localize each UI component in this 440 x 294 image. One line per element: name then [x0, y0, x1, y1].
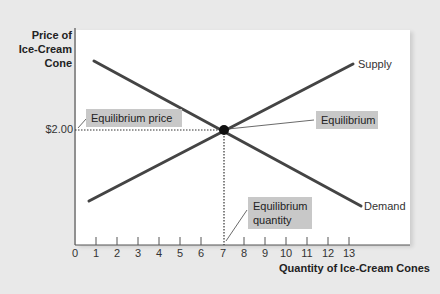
y-axis-label-line: Ice-Cream [19, 42, 72, 56]
equilibrium-point [219, 125, 229, 135]
x-tick-label: 5 [177, 247, 183, 259]
supply-label: Supply [358, 58, 392, 70]
x-tick-label: 4 [156, 247, 162, 259]
demand-label: Demand [364, 200, 406, 212]
y-axis-label-line: Cone [19, 56, 72, 70]
equilibrium-quantity-callout: Equilibrium quantity [248, 197, 312, 229]
x-tick-label: 3 [135, 247, 141, 259]
x-tick-label: 12 [322, 247, 334, 259]
x-tick-label: 0 [72, 247, 78, 259]
eq-qty-leader [226, 210, 247, 241]
x-tick-label: 8 [241, 247, 247, 259]
equilibrium-callout: Equilibrium [316, 111, 378, 129]
x-tick-label: 10 [280, 247, 292, 259]
y-tick-label: $2.00 [45, 123, 73, 135]
equilibrium-price-callout: Equilibrium price [86, 109, 182, 127]
x-ticks [96, 237, 349, 245]
x-tick-label: 6 [198, 247, 204, 259]
x-tick-label: 1 [93, 247, 99, 259]
eq-price-leader [78, 119, 86, 128]
x-tick-label: 13 [343, 247, 355, 259]
x-tick-label: 9 [262, 247, 268, 259]
y-axis-label: Price of Ice-Cream Cone [19, 28, 72, 70]
x-tick-label: 2 [114, 247, 120, 259]
callout-line: quantity [253, 213, 307, 227]
x-axis-label: Quantity of Ice-Cream Cones [279, 262, 430, 274]
x-tick-label: 11 [301, 247, 312, 259]
y-axis-label-line: Price of [19, 28, 72, 42]
callout-line: Equilibrium [253, 199, 307, 213]
x-tick-label: 7 [220, 247, 226, 259]
